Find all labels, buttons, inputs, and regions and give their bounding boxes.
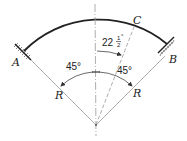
angle-label-c-whole: 22 xyxy=(102,37,114,48)
angle-label-right: 45° xyxy=(117,65,132,76)
angle-label-c-den: 2 xyxy=(117,42,121,48)
center-point xyxy=(95,124,97,126)
angle-arc-c xyxy=(97,51,121,55)
angle-label-left: 45° xyxy=(66,61,81,72)
label-r-right: R xyxy=(132,87,141,100)
center-line xyxy=(95,4,96,136)
angle-label-c-deg: ° xyxy=(121,33,124,39)
curved-beam-diagram: A B C R R 45° 45° 22 1 2 ° xyxy=(0,0,187,141)
label-r-left: R xyxy=(54,89,63,102)
label-c: C xyxy=(133,14,142,27)
label-b: B xyxy=(168,53,177,66)
label-a: A xyxy=(11,56,20,69)
angle-arc-left xyxy=(61,72,93,86)
